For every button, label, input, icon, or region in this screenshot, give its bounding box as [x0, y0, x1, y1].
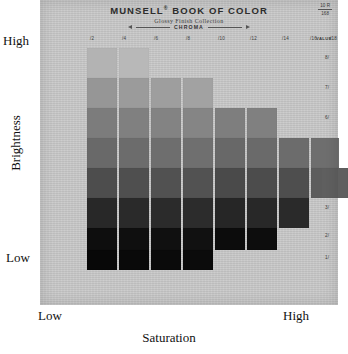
color-swatch: [183, 78, 213, 108]
color-swatch: [87, 250, 117, 270]
color-swatch: [215, 198, 245, 228]
color-swatch: [87, 48, 117, 78]
color-swatch: [247, 108, 277, 138]
color-swatch: [119, 108, 149, 138]
color-swatch: [247, 138, 277, 168]
color-swatch: [151, 138, 181, 168]
color-swatch: [183, 250, 213, 270]
color-swatch: [87, 228, 117, 250]
color-swatch: [151, 108, 181, 138]
saturation-axis-label: Saturation: [0, 330, 338, 346]
color-swatch: [215, 108, 245, 138]
color-swatch: [119, 78, 149, 108]
color-swatch: [279, 198, 309, 228]
color-swatch: [119, 48, 149, 78]
saturation-high-label: High: [283, 308, 309, 324]
color-swatch: [87, 108, 117, 138]
saturation-low-label: Low: [38, 308, 62, 324]
color-swatch: [119, 228, 149, 250]
brightness-high-label: High: [3, 33, 29, 49]
color-swatch: [119, 250, 149, 270]
brightness-axis-label: Brightness: [8, 107, 24, 179]
color-swatch: [151, 250, 181, 270]
color-swatch: [183, 228, 213, 250]
color-swatch: [87, 168, 117, 198]
color-swatch: [311, 138, 339, 168]
color-swatch-grid: [40, 0, 338, 305]
color-swatch: [87, 78, 117, 108]
color-swatch: [183, 138, 213, 168]
color-swatch: [119, 138, 149, 168]
color-swatch: [151, 198, 181, 228]
color-swatch: [183, 198, 213, 228]
color-swatch: [183, 168, 213, 198]
color-swatch: [87, 198, 117, 228]
color-swatch: [151, 168, 181, 198]
color-swatch: [215, 228, 245, 250]
color-swatch: [119, 168, 149, 198]
color-swatch: [151, 228, 181, 250]
color-swatch: [279, 138, 309, 168]
book-page: MUNSELL® BOOK OF COLOR Glossy Finish Col…: [40, 0, 338, 305]
color-swatch: [151, 78, 181, 108]
color-swatch: [247, 228, 277, 250]
color-swatch: [87, 138, 117, 168]
color-swatch: [279, 168, 309, 198]
color-swatch: [119, 198, 149, 228]
brightness-low-label: Low: [6, 250, 30, 266]
color-swatch: [247, 198, 277, 228]
color-swatch: [321, 168, 348, 198]
color-swatch: [247, 168, 277, 198]
color-swatch: [215, 138, 245, 168]
color-swatch: [215, 168, 245, 198]
color-swatch: [183, 108, 213, 138]
